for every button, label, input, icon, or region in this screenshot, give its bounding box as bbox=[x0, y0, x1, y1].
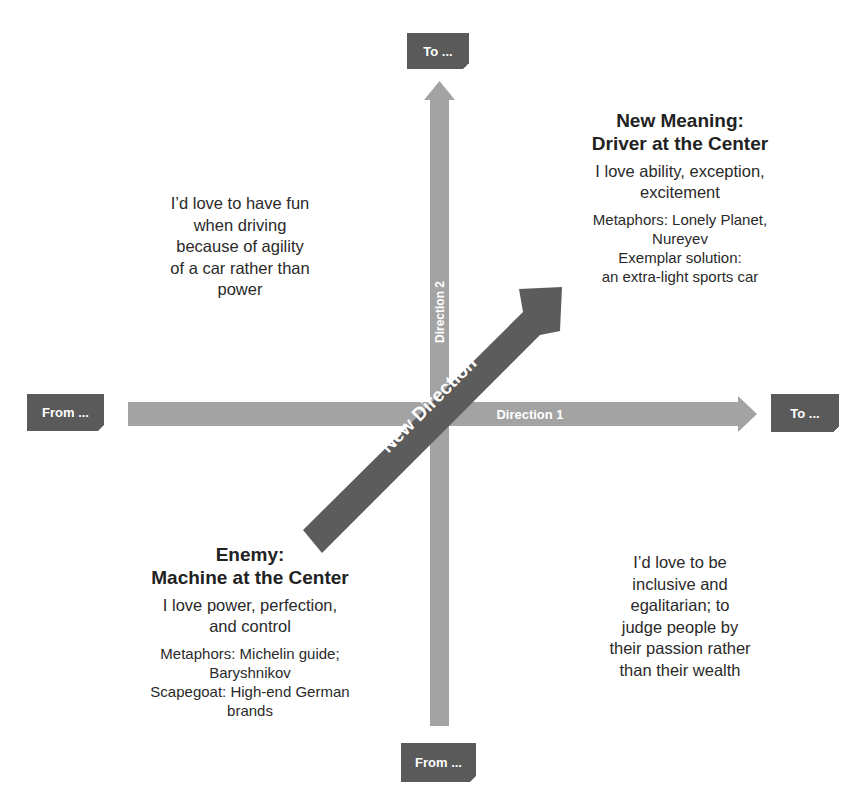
enemy-details: Metaphors: Michelin guide; Baryshnikov S… bbox=[115, 644, 385, 720]
new-meaning-heading: New Meaning: Driver at the Center bbox=[560, 109, 800, 155]
left-from-label: From ... bbox=[42, 405, 89, 420]
left-from-box: From ... bbox=[27, 394, 104, 431]
detail-line: Metaphors: Lonely Planet, bbox=[560, 210, 800, 229]
direction-2-label: Direction 2 bbox=[433, 281, 447, 343]
text-line: because of agility bbox=[130, 236, 350, 258]
detail-line: brands bbox=[115, 701, 385, 720]
statement-line: excitement bbox=[560, 182, 800, 203]
quadrant-new-meaning: New Meaning: Driver at the Center I love… bbox=[560, 109, 800, 286]
text-line: than their wealth bbox=[570, 660, 790, 682]
quadrant-enemy: Enemy: Machine at the Center I love powe… bbox=[115, 543, 385, 720]
top-to-label: To ... bbox=[423, 44, 452, 59]
text-line: when driving bbox=[130, 215, 350, 237]
detail-line: Baryshnikov bbox=[115, 663, 385, 682]
new-meaning-details: Metaphors: Lonely Planet, Nureyev Exempl… bbox=[560, 210, 800, 286]
heading-line: Driver at the Center bbox=[560, 132, 800, 155]
text-line: judge people by bbox=[570, 617, 790, 639]
quadrant-bottom-right: I’d love to be inclusive and egalitarian… bbox=[570, 552, 790, 681]
heading-line: New Meaning: bbox=[560, 109, 800, 132]
new-meaning-statement: I love ability, exception, excitement bbox=[560, 161, 800, 203]
right-to-label: To ... bbox=[790, 406, 819, 421]
detail-line: an extra-light sports car bbox=[560, 267, 800, 286]
text-line: of a car rather than bbox=[130, 258, 350, 280]
heading-line: Enemy: bbox=[115, 543, 385, 566]
bottom-from-label: From ... bbox=[415, 755, 462, 770]
text-line: I’d love to have fun bbox=[130, 193, 350, 215]
detail-line: Exemplar solution: bbox=[560, 248, 800, 267]
statement-line: I love ability, exception, bbox=[560, 161, 800, 182]
bottom-from-box: From ... bbox=[401, 743, 476, 782]
detail-line: Scapegoat: High-end German bbox=[115, 682, 385, 701]
statement-line: and control bbox=[115, 616, 385, 637]
diagram-canvas: Direction 1 Direction 2 New Direction To… bbox=[0, 0, 868, 810]
heading-line: Machine at the Center bbox=[115, 566, 385, 589]
enemy-statement: I love power, perfection, and control bbox=[115, 595, 385, 637]
text-line: their passion rather bbox=[570, 638, 790, 660]
quadrant-top-left: I’d love to have fun when driving becaus… bbox=[130, 193, 350, 301]
text-line: egalitarian; to bbox=[570, 595, 790, 617]
text-line: power bbox=[130, 279, 350, 301]
text-line: I’d love to be bbox=[570, 552, 790, 574]
text-line: inclusive and bbox=[570, 574, 790, 596]
statement-line: I love power, perfection, bbox=[115, 595, 385, 616]
enemy-heading: Enemy: Machine at the Center bbox=[115, 543, 385, 589]
direction-1-label: Direction 1 bbox=[496, 407, 563, 422]
detail-line: Nureyev bbox=[560, 229, 800, 248]
right-to-box: To ... bbox=[771, 394, 839, 432]
detail-line: Metaphors: Michelin guide; bbox=[115, 644, 385, 663]
top-to-box: To ... bbox=[407, 33, 469, 69]
